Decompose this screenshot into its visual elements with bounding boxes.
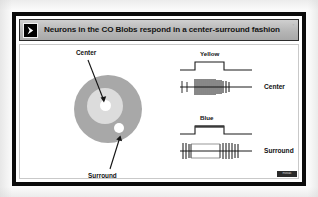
scanned-page: Neurons in the CO Blobs respond in a cen… xyxy=(0,0,318,197)
slide: Neurons in the CO Blobs respond in a cen… xyxy=(16,16,302,182)
center-traces xyxy=(178,51,308,107)
page-title: Neurons in the CO Blobs respond in a cen… xyxy=(44,26,280,34)
corner-mark: :: xyxy=(292,23,294,27)
diagram-label-center: Center xyxy=(76,50,96,56)
slide-frame: Neurons in the CO Blobs respond in a cen… xyxy=(12,12,306,186)
slide-body: Center Surround Yellow xyxy=(19,44,299,179)
receptive-field-diagram: Center Surround xyxy=(44,47,174,185)
response-label-center: Center xyxy=(264,84,285,91)
slide-title-bar: Neurons in the CO Blobs respond in a cen… xyxy=(19,19,299,41)
play-arrow-icon xyxy=(23,23,38,38)
surround-traces xyxy=(178,115,308,171)
footer-badge-text: mosaic xyxy=(283,172,292,175)
recording-panel-center: Yellow xyxy=(178,51,308,107)
response-label-surround: Surround xyxy=(264,148,294,155)
diagram-label-surround: Surround xyxy=(88,173,117,179)
leader-lines xyxy=(44,47,174,185)
footer-badge: mosaic xyxy=(277,171,297,177)
recording-panel-surround: Blue xyxy=(178,115,308,171)
